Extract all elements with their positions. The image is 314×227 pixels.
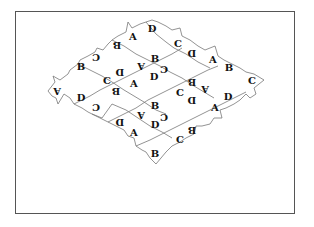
tile-label-c: C — [175, 135, 185, 145]
tessellation-outline — [0, 0, 314, 227]
tile-label-b: B — [112, 40, 122, 50]
tile-label-d: D — [149, 72, 159, 82]
tile-label-a: A — [52, 86, 62, 96]
tile-label-c: C — [159, 112, 169, 122]
tile-label-d: D — [187, 95, 197, 105]
tile-label-b: B — [187, 77, 197, 87]
tile-label-b: B — [187, 125, 197, 135]
tile-label-d: D — [115, 67, 125, 77]
tile-label-d: D — [115, 117, 125, 127]
tile-label-c: C — [175, 88, 185, 98]
tile-label-b: B — [150, 101, 160, 111]
tile-label-b: B — [224, 63, 234, 73]
tile-label-b: B — [111, 86, 121, 96]
tile-label-d: D — [150, 120, 160, 130]
tile-label-d: D — [223, 92, 233, 102]
tile-label-a: A — [128, 32, 138, 42]
tile-label-d: D — [187, 48, 197, 58]
tile-label-a: A — [200, 84, 210, 94]
tile-label-c: C — [102, 76, 112, 86]
tile-label-d: D — [76, 93, 86, 103]
tile-label-c: C — [173, 39, 183, 49]
tile-label-b: B — [76, 62, 86, 72]
tile-label-b: B — [150, 149, 160, 159]
tile-label-b: B — [150, 54, 160, 64]
tile-label-a: A — [136, 110, 146, 120]
tile-label-a: A — [129, 128, 139, 138]
tile-label-a: A — [129, 79, 139, 89]
tile-label-c: C — [91, 52, 101, 62]
tile-label-d: D — [147, 24, 157, 34]
tile-label-c: C — [159, 64, 169, 74]
tile-label-a: A — [136, 61, 146, 71]
tile-label-a: A — [208, 55, 218, 65]
tile-label-c: C — [91, 102, 101, 112]
tile-label-c: C — [247, 76, 257, 86]
tile-label-a: A — [210, 103, 220, 113]
